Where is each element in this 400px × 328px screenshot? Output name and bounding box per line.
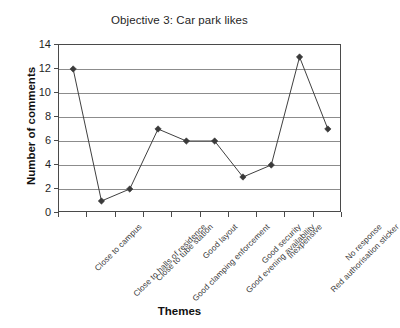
x-tick-mark (143, 212, 144, 217)
data-point-marker (268, 162, 274, 168)
y-tick-label: 4 (27, 159, 51, 170)
plot-area (58, 44, 341, 212)
y-tick-mark (54, 188, 58, 189)
data-point-marker (183, 138, 189, 144)
series-line (73, 57, 328, 201)
y-tick-label: 14 (27, 39, 51, 50)
data-point-marker (70, 66, 76, 72)
y-tick-label: 12 (27, 63, 51, 74)
data-point-marker (296, 54, 302, 60)
data-point-marker (98, 198, 104, 204)
chart-title: Objective 3: Car park likes (0, 14, 359, 26)
x-tick-mark (256, 212, 257, 217)
y-tick-label: 6 (27, 135, 51, 146)
y-tick-mark (54, 44, 58, 45)
line-series (59, 45, 342, 213)
y-tick-mark (54, 164, 58, 165)
x-tick-mark (58, 212, 59, 217)
y-tick-mark (54, 68, 58, 69)
x-tick-mark (341, 212, 342, 217)
y-tick-label: 10 (27, 87, 51, 98)
x-category-label: Red authorisation sticker (328, 222, 400, 294)
y-tick-label: 8 (27, 111, 51, 122)
x-tick-mark (86, 212, 87, 217)
x-tick-mark (228, 212, 229, 217)
x-category-label: Close to campus (93, 222, 144, 273)
x-tick-mark (115, 212, 116, 217)
y-tick-mark (54, 140, 58, 141)
x-tick-mark (313, 212, 314, 217)
y-tick-label: 0 (27, 207, 51, 218)
x-tick-mark (171, 212, 172, 217)
y-tick-label: 2 (27, 183, 51, 194)
data-point-marker (127, 186, 133, 192)
data-point-marker (155, 126, 161, 132)
x-axis-title: Themes (0, 305, 359, 317)
y-tick-mark (54, 92, 58, 93)
y-tick-mark (54, 116, 58, 117)
x-tick-mark (284, 212, 285, 217)
x-tick-mark (200, 212, 201, 217)
data-point-marker (325, 126, 331, 132)
